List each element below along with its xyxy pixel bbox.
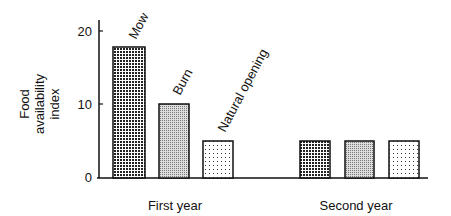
bar-label-mow: Mow — [125, 10, 151, 42]
y-tick-label-20: 20 — [78, 24, 92, 39]
bar-second-year-mow — [300, 141, 330, 178]
bar-label-natural-opening: Natural opening — [214, 46, 270, 134]
bar-first-year-natural-opening — [203, 141, 233, 178]
svg-text:Food: Food — [17, 89, 32, 119]
y-axis-label: Food availability index — [17, 74, 62, 134]
group-label-first-year: First year — [148, 198, 203, 213]
bar-second-year-natural-opening — [389, 141, 419, 178]
bar-first-year-burn — [159, 104, 189, 178]
y-tick-label-10: 10 — [78, 97, 92, 112]
bar-chart: 20 10 0 Food availability index Mow Burn… — [0, 0, 451, 216]
bar-first-year-mow — [113, 47, 145, 178]
y-tick-label-0: 0 — [85, 170, 92, 185]
bar-label-burn: Burn — [169, 66, 195, 97]
svg-text:availability: availability — [32, 74, 47, 134]
svg-text:index: index — [47, 88, 62, 120]
group-label-second-year: Second year — [320, 198, 394, 213]
bar-second-year-burn — [345, 141, 374, 178]
